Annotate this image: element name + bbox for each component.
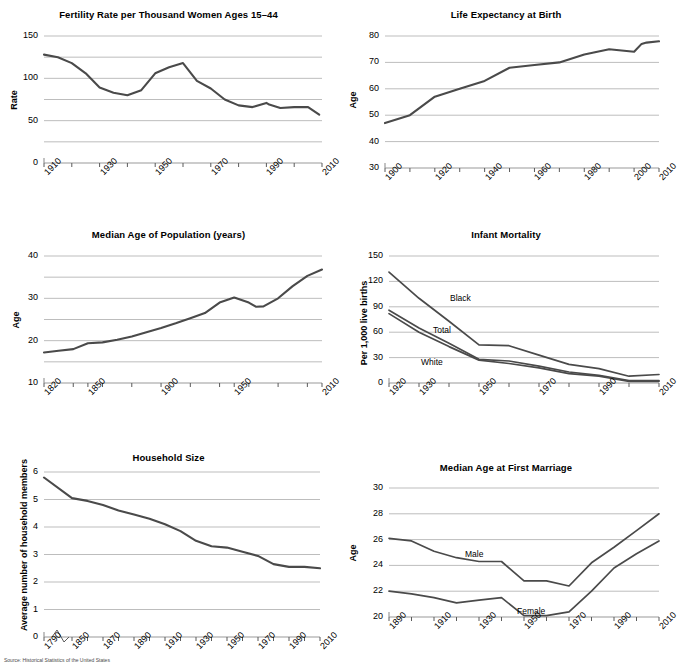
y-tick-label: 90 (357, 301, 383, 311)
chart-canvas-infant-mortality (337, 220, 675, 440)
series-inline-label: Female (517, 606, 545, 616)
chart-canvas-household-size (0, 440, 337, 663)
y-tick-label: 10 (12, 377, 38, 387)
y-tick-label: 30 (12, 292, 38, 302)
y-tick-label: 20 (12, 335, 38, 345)
chart-title: Fertility Rate per Thousand Women Ages 1… (0, 9, 337, 20)
y-tick-label: 150 (357, 250, 383, 260)
data-series-line (389, 541, 659, 616)
y-tick-label: 30 (357, 482, 383, 492)
y-tick-label: 4 (12, 521, 38, 531)
series-inline-label: Black (450, 293, 471, 303)
y-tick-label: 30 (353, 162, 379, 172)
y-tick-label: 22 (357, 585, 383, 595)
y-tick-label: 150 (12, 30, 38, 40)
y-tick-label: 0 (12, 157, 38, 167)
chart-canvas-median-age-first-marriage (337, 440, 675, 663)
y-tick-label: 40 (12, 250, 38, 260)
panel-median-age-population: Median Age of Population (years) Age 102… (0, 220, 337, 440)
series-inline-label: Male (465, 549, 483, 559)
chart-title: Infant Mortality (337, 229, 675, 240)
y-tick-label: 120 (357, 275, 383, 285)
y-tick-label: 6 (12, 466, 38, 476)
y-tick-label: 28 (357, 508, 383, 518)
y-tick-label: 50 (353, 109, 379, 119)
panel-household-size: Household Size Average number of househo… (0, 440, 337, 663)
y-tick-label: 26 (357, 534, 383, 544)
chart-title: Median Age of Population (years) (0, 229, 337, 240)
y-tick-label: 24 (357, 559, 383, 569)
panel-life-expectancy: Life Expectancy at Birth Age 30405060708… (337, 0, 675, 220)
y-tick-label: 3 (12, 549, 38, 559)
panel-infant-mortality: Infant Mortality Per 1,000 live births 0… (337, 220, 675, 440)
data-series-line (389, 314, 659, 382)
y-tick-label: 30 (357, 352, 383, 362)
data-series-line (385, 41, 659, 123)
y-tick-label: 40 (353, 136, 379, 146)
data-series-line (389, 514, 659, 586)
chart-canvas-fertility (0, 0, 337, 220)
y-tick-label: 100 (12, 72, 38, 82)
y-tick-label: 1 (12, 604, 38, 614)
chart-canvas-median-age-population (0, 220, 337, 440)
chart-title: Life Expectancy at Birth (337, 9, 675, 20)
panel-fertility: Fertility Rate per Thousand Women Ages 1… (0, 0, 337, 220)
y-tick-label: 80 (353, 30, 379, 40)
y-tick-label: 2 (12, 576, 38, 586)
chart-canvas-life-expectancy (337, 0, 675, 220)
y-tick-label: 0 (12, 631, 38, 641)
data-series-line (389, 310, 659, 380)
y-tick-label: 0 (357, 377, 383, 387)
source-footnote: Source: Historical Statistics of the Uni… (4, 657, 110, 663)
panel-median-age-first-marriage: Median Age at First Marriage Age 2022242… (337, 440, 675, 663)
data-series-line (44, 270, 322, 353)
data-series-line (44, 55, 319, 115)
y-tick-label: 50 (12, 115, 38, 125)
y-tick-label: 70 (353, 56, 379, 66)
series-inline-label: White (421, 357, 443, 367)
y-tick-label: 60 (353, 83, 379, 93)
chart-title: Household Size (0, 452, 337, 463)
y-tick-label: 60 (357, 326, 383, 336)
series-inline-label: Total (433, 325, 451, 335)
chart-title: Median Age at First Marriage (337, 462, 675, 473)
y-tick-label: 20 (357, 611, 383, 621)
y-tick-label: 5 (12, 494, 38, 504)
